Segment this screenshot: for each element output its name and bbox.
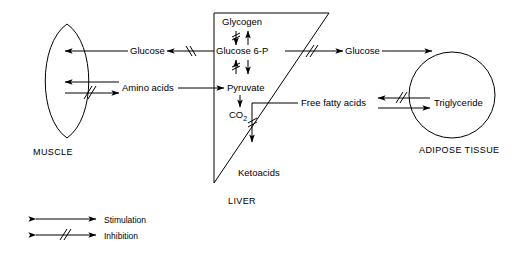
diagram-svg: Glucose (muscle side) --> muscle --> Pyr… — [0, 0, 525, 254]
organ-label-liver: LIVER — [228, 196, 256, 206]
adipose-outline — [409, 52, 495, 138]
label-glycogen: Glycogen — [222, 17, 262, 27]
arrow-g6p-to-glucose-adipose — [285, 45, 343, 57]
arrow-pyruvate-to-g6p — [232, 60, 240, 74]
arrow-g6p-to-glycogen — [232, 31, 240, 45]
legend-label-inhibition: Inhibition — [104, 231, 138, 241]
organ-label-adipose: ADIPOSE TISSUE — [419, 145, 499, 155]
arrow-aminoacids-to-muscle — [65, 86, 119, 99]
label-pyruvate: Pyruvate — [227, 83, 265, 93]
label-glucose-adipose: Glucose — [345, 46, 380, 56]
label-glucose-muscle: Glucose — [130, 46, 165, 56]
label-glucose-6-p: Glucose 6-P — [216, 46, 268, 56]
label-co2-text: CO — [229, 109, 243, 120]
legend-label-stimulation: Stimulation — [104, 215, 146, 225]
label-triglyceride: Triglyceride — [434, 98, 483, 108]
label-co2-subscript: 2 — [243, 115, 247, 122]
organ-label-muscle: MUSCLE — [33, 147, 73, 157]
arrow-g6p-to-glucose-muscle — [167, 46, 214, 56]
arrow-triglyceride-to-ffa — [378, 92, 430, 103]
arrow-ffa-to-ketoacids — [248, 103, 298, 142]
label-amino-acids: Amino acids — [122, 83, 174, 93]
legend-arrow-inhibition — [36, 229, 96, 240]
muscle-outline — [45, 24, 89, 138]
label-co2: CO2 — [229, 110, 247, 122]
label-free-fatty-acids: Free fatty acids — [301, 98, 366, 108]
label-ketoacids: Ketoacids — [238, 168, 280, 178]
diagram-canvas: Glucose (muscle side) --> muscle --> Pyr… — [0, 0, 525, 254]
